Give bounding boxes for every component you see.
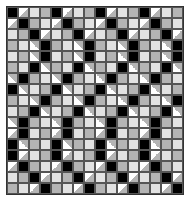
quilt-cell: [62, 7, 73, 18]
quilt-cell: [117, 51, 128, 62]
quilt-cell: [128, 18, 139, 29]
quilt-cell: [29, 40, 40, 51]
quilt-cell: [51, 172, 62, 183]
quilt-cell: [95, 40, 106, 51]
quilt-cell: [84, 7, 95, 18]
quilt-cell: [62, 150, 73, 161]
quilt-cell: [51, 106, 62, 117]
quilt-cell: [95, 139, 106, 150]
quilt-cell: [29, 128, 40, 139]
quilt-cell: [7, 150, 18, 161]
quilt-cell: [84, 172, 95, 183]
quilt-cell: [117, 139, 128, 150]
quilt-cell: [84, 150, 95, 161]
quilt-cell: [106, 172, 117, 183]
quilt-cell: [117, 40, 128, 51]
quilt-cell: [18, 40, 29, 51]
quilt-cell: [29, 161, 40, 172]
quilt-cell: [29, 7, 40, 18]
quilt-cell: [51, 183, 62, 194]
quilt-cell: [62, 139, 73, 150]
quilt-cell: [150, 106, 161, 117]
quilt-cell: [95, 51, 106, 62]
quilt-cell: [139, 106, 150, 117]
quilt-cell: [150, 62, 161, 73]
quilt-cell: [40, 29, 51, 40]
quilt-cell: [40, 106, 51, 117]
quilt-cell: [172, 150, 183, 161]
quilt-cell: [18, 73, 29, 84]
quilt-cell: [139, 183, 150, 194]
quilt-cell: [161, 150, 172, 161]
quilt-cell: [29, 139, 40, 150]
quilt-cell: [62, 183, 73, 194]
quilt-cell: [128, 51, 139, 62]
quilt-cell: [161, 172, 172, 183]
quilt-cell: [161, 106, 172, 117]
quilt-cell: [106, 51, 117, 62]
quilt-cell: [84, 73, 95, 84]
quilt-cell: [51, 51, 62, 62]
quilt-cell: [172, 139, 183, 150]
quilt-cell: [29, 51, 40, 62]
quilt-cell: [73, 51, 84, 62]
quilt-cell: [18, 172, 29, 183]
quilt-cell: [51, 40, 62, 51]
quilt-cell: [40, 128, 51, 139]
quilt-cell: [84, 161, 95, 172]
quilt-cell: [62, 51, 73, 62]
quilt-cell: [161, 139, 172, 150]
quilt-cell: [40, 183, 51, 194]
quilt-cell: [84, 95, 95, 106]
quilt-cell: [7, 73, 18, 84]
quilt-cell: [106, 128, 117, 139]
quilt-cell: [40, 40, 51, 51]
quilt-cell: [73, 172, 84, 183]
quilt-cell: [117, 95, 128, 106]
quilt-cell: [62, 29, 73, 40]
quilt-cell: [29, 106, 40, 117]
quilt-cell: [73, 29, 84, 40]
quilt-cell: [7, 62, 18, 73]
quilt-cell: [117, 84, 128, 95]
quilt-cell: [150, 7, 161, 18]
quilt-cell: [7, 128, 18, 139]
quilt-cell: [161, 51, 172, 62]
quilt-cell: [117, 7, 128, 18]
quilt-cell: [51, 161, 62, 172]
quilt-cell: [95, 172, 106, 183]
quilt-cell: [84, 139, 95, 150]
quilt-cell: [150, 40, 161, 51]
quilt-cell: [139, 18, 150, 29]
quilt-cell: [150, 161, 161, 172]
quilt-cell: [128, 106, 139, 117]
quilt-cell: [18, 128, 29, 139]
quilt-cell: [7, 172, 18, 183]
quilt-cell: [51, 29, 62, 40]
quilt-cell: [106, 117, 117, 128]
quilt-cell: [7, 95, 18, 106]
quilt-cell: [117, 161, 128, 172]
quilt-cell: [161, 62, 172, 73]
quilt-cell: [29, 29, 40, 40]
quilt-cell: [139, 95, 150, 106]
quilt-cell: [7, 84, 18, 95]
quilt-cell: [161, 40, 172, 51]
quilt-cell: [40, 51, 51, 62]
quilt-cell: [172, 40, 183, 51]
quilt-cell: [73, 183, 84, 194]
quilt-cell: [172, 117, 183, 128]
quilt-cell: [40, 84, 51, 95]
quilt-cell: [18, 106, 29, 117]
quilt-cell: [172, 29, 183, 40]
quilt-cell: [51, 117, 62, 128]
quilt-cell: [62, 161, 73, 172]
quilt-cell: [128, 139, 139, 150]
quilt-cell: [73, 84, 84, 95]
quilt-cell: [95, 183, 106, 194]
quilt-cell: [29, 150, 40, 161]
quilt-cell: [106, 7, 117, 18]
quilt-cell: [7, 183, 18, 194]
quilt-cell: [95, 95, 106, 106]
quilt-cell: [172, 7, 183, 18]
